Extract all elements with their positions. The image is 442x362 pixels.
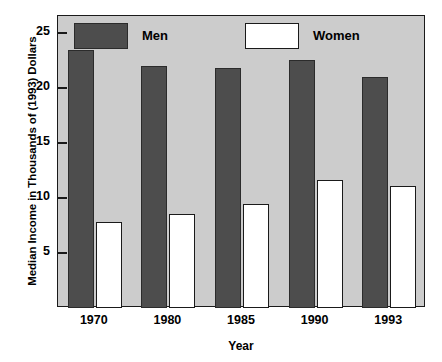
bar-women-1970 [96,222,122,308]
y-axis-title: Median Income in Thousands of (1993) Dol… [26,11,38,311]
bar-women-1980 [169,214,195,308]
bar-women-1990 [317,180,343,308]
legend-label-men: Men [142,28,168,43]
bar-men-1985 [215,68,241,308]
x-axis-tick-label: 1993 [353,313,423,327]
bar-chart: Median Income in Thousands of (1993) Dol… [0,0,442,362]
bar-men-1980 [141,66,167,308]
y-axis-tick [58,87,67,89]
y-axis-tick-label: 10 [12,190,50,203]
bar-women-1985 [243,204,269,308]
y-axis-tick [58,32,67,34]
bar-women-1993 [390,186,416,308]
y-axis-tick [58,252,67,254]
bar-men-1990 [289,60,315,308]
x-axis-tick-label: 1985 [206,313,276,327]
y-axis-tick-label: 5 [12,245,50,258]
x-axis-tick-label: 1970 [59,313,129,327]
x-axis-tick-label: 1990 [280,313,350,327]
x-axis-title: Year [57,339,425,353]
y-axis-tick [58,197,67,199]
plot-area: Men Women [57,15,425,307]
bar-men-1993 [362,77,388,308]
bar-men-1970 [68,50,94,308]
x-axis-tick-label: 1980 [132,313,202,327]
y-axis-tick [58,142,67,144]
y-axis-tick-label: 15 [12,135,50,148]
legend-swatch-men [74,23,128,49]
y-axis-tick-label: 25 [12,25,50,38]
legend-swatch-women [245,23,299,49]
legend-label-women: Women [313,28,360,43]
y-axis-tick-label: 20 [12,80,50,93]
